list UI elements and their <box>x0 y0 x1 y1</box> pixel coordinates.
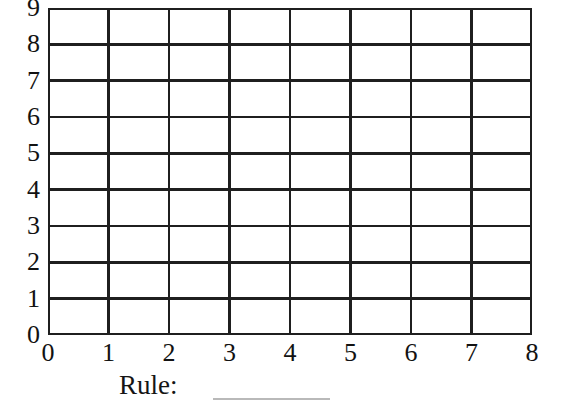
plot-grid[interactable] <box>48 8 532 335</box>
y-tick-label-6: 6 <box>0 104 40 130</box>
y-tick-label-3: 3 <box>0 213 40 239</box>
x-tick-label-2: 2 <box>149 340 189 366</box>
x-tick-label-5: 5 <box>331 340 371 366</box>
x-tick-label-8: 8 <box>512 340 552 366</box>
x-tick-label-6: 6 <box>391 340 431 366</box>
rule-label: Rule: <box>119 371 178 399</box>
y-tick-label-9: 9 <box>0 0 40 21</box>
y-tick-label-1: 1 <box>0 286 40 312</box>
x-tick-label-4: 4 <box>270 340 310 366</box>
y-tick-label-8: 8 <box>0 31 40 57</box>
coordinate-grid-worksheet: 9876543210 012345678 Rule: <box>0 0 563 403</box>
x-tick-label-3: 3 <box>210 340 250 366</box>
rule-answer-blank-line[interactable] <box>213 398 330 400</box>
y-tick-label-4: 4 <box>0 177 40 203</box>
y-tick-label-2: 2 <box>0 249 40 275</box>
x-tick-label-0: 0 <box>28 340 68 366</box>
x-tick-label-1: 1 <box>89 340 129 366</box>
y-tick-label-7: 7 <box>0 68 40 94</box>
x-tick-label-7: 7 <box>452 340 492 366</box>
grid-lines <box>48 8 532 335</box>
y-tick-label-5: 5 <box>0 140 40 166</box>
